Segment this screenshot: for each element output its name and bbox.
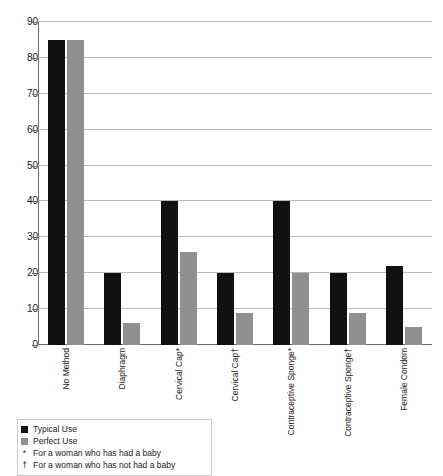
- bar: [104, 273, 121, 345]
- legend-item: *For a woman who has had a baby: [21, 447, 207, 459]
- legend-swatch-perfect: [21, 438, 28, 445]
- bar: [330, 273, 347, 345]
- bar-group: [151, 22, 207, 345]
- legend-footnote-symbol: *: [21, 447, 28, 459]
- legend-item: Typical Use: [21, 423, 207, 435]
- x-axis-label-slot: Female Condom: [376, 348, 432, 418]
- bar: [48, 40, 65, 345]
- x-axis-tick-label: Cervical Cap†: [230, 348, 239, 401]
- legend-label: For a woman who has had a baby: [33, 447, 161, 459]
- bar: [405, 327, 422, 345]
- x-axis-tick-label: Diaphragm: [118, 348, 127, 390]
- x-axis-label-slot: No Method: [38, 348, 94, 418]
- plot-area: [38, 22, 432, 345]
- legend-label: For a woman who has not had a baby: [33, 459, 175, 471]
- legend-footnote-symbol: †: [21, 459, 28, 471]
- x-axis-label-slot: Contraceptive Sponge†: [319, 348, 375, 418]
- x-axis-label-slot: Diaphragm: [94, 348, 150, 418]
- bar: [161, 201, 178, 345]
- bar-group: [263, 22, 319, 345]
- chart-legend: Typical UsePerfect Use*For a woman who h…: [17, 419, 212, 476]
- bar: [123, 323, 140, 345]
- x-axis-labels: No MethodDiaphragmCervical Cap*Cervical …: [38, 348, 432, 418]
- x-axis-label-slot: Cervical Cap†: [207, 348, 263, 418]
- bar-group: [319, 22, 375, 345]
- bar: [386, 266, 403, 345]
- x-axis-tick-label: Cervical Cap*: [174, 348, 183, 400]
- bar: [349, 313, 366, 345]
- bar: [67, 40, 84, 345]
- bar: [217, 273, 234, 345]
- x-axis-tick-label: No Method: [62, 348, 71, 390]
- bar-chart: 0102030405060708090 No MethodDiaphragmCe…: [0, 0, 443, 476]
- legend-item: Perfect Use: [21, 435, 207, 447]
- y-axis-tick-mark: [32, 345, 38, 346]
- x-axis-label-slot: Cervical Cap*: [151, 348, 207, 418]
- bar: [292, 273, 309, 345]
- bar: [236, 313, 253, 345]
- legend-item: †For a woman who has not had a baby: [21, 459, 207, 471]
- bar: [180, 252, 197, 345]
- bar-group: [207, 22, 263, 345]
- bar-group: [94, 22, 150, 345]
- legend-label: Typical Use: [33, 423, 77, 435]
- x-axis-tick-label: Female Condom: [399, 348, 408, 411]
- x-axis-label-slot: Contraceptive Sponge*: [263, 348, 319, 418]
- x-axis-tick-label: Contraceptive Sponge*: [287, 348, 296, 435]
- x-axis-tick-label: Contraceptive Sponge†: [343, 348, 352, 437]
- legend-label: Perfect Use: [33, 435, 77, 447]
- bar-group: [376, 22, 432, 345]
- bar-group: [38, 22, 94, 345]
- legend-swatch-typical: [21, 426, 28, 433]
- bar: [273, 201, 290, 345]
- y-axis: 0102030405060708090: [0, 0, 38, 476]
